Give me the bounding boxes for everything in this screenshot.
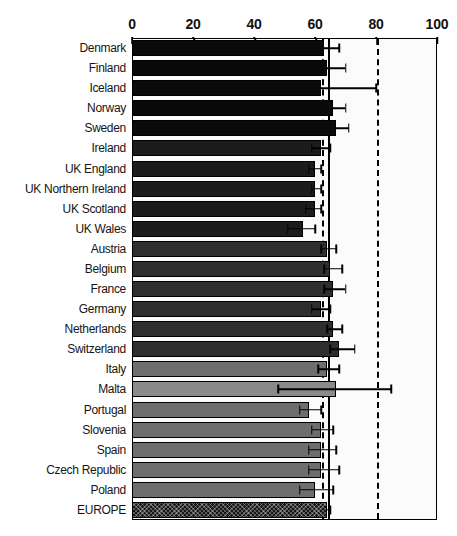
error-cap-high-italy xyxy=(339,365,341,374)
error-cap-low-uk-wales xyxy=(287,224,289,233)
error-bar-france xyxy=(324,288,345,290)
bar-uk-wales xyxy=(132,221,303,237)
error-cap-low-uk-england xyxy=(308,164,310,173)
error-bar-ireland xyxy=(312,148,330,150)
error-bar-germany xyxy=(312,308,330,310)
error-bar-slovenia xyxy=(312,429,333,431)
error-cap-high-norway xyxy=(345,104,347,113)
error-cap-high-finland xyxy=(345,64,347,73)
error-cap-low-slovenia xyxy=(311,425,313,434)
error-bar-belgium xyxy=(324,268,342,270)
category-label-spain: Spain xyxy=(97,443,126,457)
error-cap-low-poland xyxy=(299,485,301,494)
bar-portugal xyxy=(132,402,309,418)
error-bar-finland xyxy=(327,67,345,69)
error-cap-high-poland xyxy=(333,485,335,494)
bar-uk-scotland xyxy=(132,201,315,217)
error-cap-high-uk-wales xyxy=(314,224,316,233)
error-cap-low-switzerland xyxy=(330,345,332,354)
bar-france xyxy=(132,281,333,297)
error-cap-high-belgium xyxy=(342,264,344,273)
error-bar-portugal xyxy=(300,409,321,411)
category-label-europe: EUROPE xyxy=(77,503,126,517)
category-label-uk-northern-ireland: UK Northern Ireland xyxy=(25,182,126,196)
error-cap-high-austria xyxy=(336,244,338,253)
error-bar-uk-england xyxy=(309,168,321,170)
bar-austria xyxy=(132,241,327,257)
error-cap-low-ireland xyxy=(311,144,313,153)
category-label-malta: Malta xyxy=(98,382,126,396)
error-cap-low-czech-republic xyxy=(308,465,310,474)
error-bar-norway xyxy=(333,108,345,110)
bar-czech-republic xyxy=(132,462,321,478)
category-label-portugal: Portugal xyxy=(84,403,126,417)
error-cap-low-france xyxy=(323,285,325,294)
error-cap-high-europe xyxy=(330,505,332,514)
error-bar-austria xyxy=(321,248,336,250)
error-cap-high-malta xyxy=(391,385,393,394)
bar-belgium xyxy=(132,261,330,277)
category-label-uk-england: UK England xyxy=(65,162,126,176)
error-bar-uk-wales xyxy=(288,228,315,230)
error-bar-czech-republic xyxy=(309,469,340,471)
bars-layer xyxy=(132,38,437,520)
category-label-uk-scotland: UK Scotland xyxy=(63,202,126,216)
error-bar-spain xyxy=(309,449,336,451)
error-bar-iceland xyxy=(321,87,376,89)
error-cap-low-portugal xyxy=(299,405,301,414)
error-bar-switzerland xyxy=(330,349,354,351)
category-label-italy: Italy xyxy=(105,362,126,376)
bar-uk-england xyxy=(132,161,315,177)
error-bar-denmark xyxy=(324,47,339,49)
bar-europe xyxy=(132,502,327,518)
category-label-norway: Norway xyxy=(87,101,126,115)
error-cap-high-uk-northern-ireland xyxy=(320,184,322,193)
error-cap-high-switzerland xyxy=(354,345,356,354)
x-axis: 020406080100 xyxy=(132,16,437,38)
error-cap-low-germany xyxy=(311,305,313,314)
category-label-netherlands: Netherlands xyxy=(65,322,126,336)
bar-slovenia xyxy=(132,422,321,438)
error-cap-high-germany xyxy=(330,305,332,314)
category-label-sweden: Sweden xyxy=(84,121,126,135)
bar-iceland xyxy=(132,80,321,96)
x-tick-label-20: 20 xyxy=(185,16,200,32)
bar-italy xyxy=(132,361,327,377)
error-cap-high-spain xyxy=(336,445,338,454)
category-label-iceland: Iceland xyxy=(89,81,126,95)
bar-denmark xyxy=(132,40,324,56)
error-cap-low-uk-northern-ireland xyxy=(311,184,313,193)
bar-ireland xyxy=(132,140,321,156)
bar-finland xyxy=(132,60,327,76)
error-cap-low-austria xyxy=(320,244,322,253)
error-cap-high-netherlands xyxy=(342,325,344,334)
category-label-czech-republic: Czech Republic xyxy=(46,463,126,477)
bar-germany xyxy=(132,301,321,317)
category-label-germany: Germany xyxy=(79,302,126,316)
error-cap-low-netherlands xyxy=(326,325,328,334)
bar-sweden xyxy=(132,120,336,136)
category-label-finland: Finland xyxy=(89,61,126,75)
category-label-denmark: Denmark xyxy=(79,41,126,55)
category-label-switzerland: Switzerland xyxy=(67,342,126,356)
category-label-france: France xyxy=(90,282,126,296)
error-cap-high-sweden xyxy=(348,124,350,133)
error-cap-low-uk-scotland xyxy=(305,204,307,213)
category-label-uk-wales: UK Wales xyxy=(76,222,127,236)
category-label-austria: Austria xyxy=(91,242,126,256)
x-tick-label-60: 60 xyxy=(307,16,322,32)
error-cap-high-uk-england xyxy=(320,164,322,173)
category-axis-labels: DenmarkFinlandIcelandNorwaySwedenIreland… xyxy=(0,38,129,520)
error-bar-uk-scotland xyxy=(306,208,321,210)
error-cap-low-spain xyxy=(308,445,310,454)
error-cap-low-italy xyxy=(317,365,319,374)
error-cap-low-belgium xyxy=(323,264,325,273)
bar-uk-northern-ireland xyxy=(132,181,315,197)
error-cap-high-denmark xyxy=(339,44,341,53)
bar-spain xyxy=(132,442,321,458)
chart-container: 020406080100 DenmarkFinlandIcelandNorway… xyxy=(0,0,457,536)
error-cap-high-slovenia xyxy=(333,425,335,434)
bar-poland xyxy=(132,482,315,498)
x-tick-label-80: 80 xyxy=(368,16,383,32)
error-bar-italy xyxy=(318,369,339,371)
